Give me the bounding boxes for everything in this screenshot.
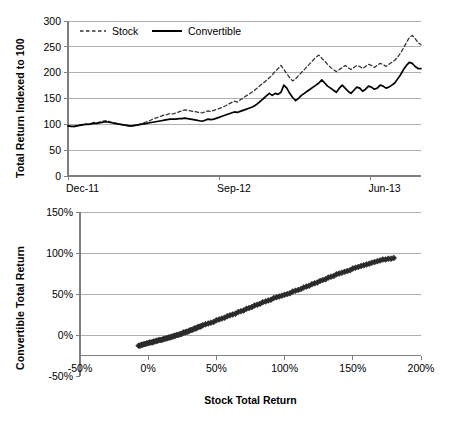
scatter-chart-panel: Convertible Total Return -50%0%50%100%15… (0, 205, 449, 426)
top-chart-x-tick-marks (68, 176, 371, 180)
series-line-stock (68, 35, 421, 126)
scatter-y-tick-label: 50% (52, 288, 73, 300)
scatter-chart-svg: -50%0%50%100%150% -50%0%50%100%150%200% … (0, 205, 449, 426)
top-chart-y-tick-label: 250 (43, 41, 61, 53)
line-chart-panel: Total Return Indexed to 100 050100150200… (0, 0, 449, 205)
top-chart-y-tick-label: 50 (49, 144, 61, 156)
legend-label-stock: Stock (112, 25, 139, 37)
scatter-x-tick-label: 0% (141, 362, 156, 374)
top-chart-x-tick-label: Dec-11 (66, 182, 99, 194)
scatter-x-tick-label: 150% (339, 362, 366, 374)
top-chart-y-axis-title: Total Return Indexed to 100 (14, 38, 26, 178)
legend-label-convertible: Convertible (188, 25, 241, 37)
scatter-x-tick-label: -50% (68, 362, 93, 374)
scatter-x-tick-marks (80, 356, 421, 360)
top-chart-gridlines (68, 21, 421, 176)
scatter-y-tick-label: 0% (58, 329, 73, 341)
scatter-x-tick-labels: -50%0%50%100%150%200% (68, 362, 435, 374)
top-chart-legend: StockConvertible (80, 25, 241, 37)
scatter-y-tick-label: 150% (46, 206, 73, 218)
top-chart-y-tick-label: 0 (55, 170, 61, 182)
scatter-chart-y-axis-title: Convertible Total Return (14, 246, 26, 370)
scatter-gridlines (80, 212, 421, 335)
top-chart-y-tick-label: 150 (43, 92, 61, 104)
scatter-x-tick-label: 200% (408, 362, 435, 374)
top-chart-x-tick-label: Jun-13 (369, 182, 401, 194)
top-chart-x-tick-label: Sep-12 (217, 182, 251, 194)
top-chart-series-group (68, 35, 421, 126)
line-chart-svg: 050100150200250300 Dec-11Sep-12Jun-13 St… (0, 0, 449, 205)
scatter-y-tick-label: 100% (46, 247, 73, 259)
scatter-chart-x-axis-title: Stock Total Return (204, 394, 297, 406)
scatter-y-tick-labels: -50%0%50%100%150% (46, 206, 73, 382)
top-chart-y-tick-label: 100 (43, 118, 61, 130)
figure-container: Total Return Indexed to 100 050100150200… (0, 0, 449, 426)
series-line-convertible (68, 62, 421, 126)
top-chart-y-tick-label: 300 (43, 15, 61, 27)
scatter-x-tick-label: 50% (206, 362, 227, 374)
top-chart-y-tick-labels: 050100150200250300 (43, 15, 61, 182)
scatter-x-tick-label: 100% (271, 362, 298, 374)
top-chart-x-tick-labels: Dec-11Sep-12Jun-13 (66, 182, 401, 194)
top-chart-y-tick-label: 200 (43, 66, 61, 78)
